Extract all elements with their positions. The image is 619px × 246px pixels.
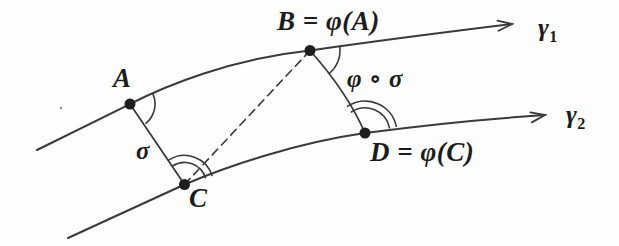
curve-gamma1-label-subscript: 1: [549, 28, 557, 45]
math-figure: A B = φ(A) C D = φ(C) σ φ ∘ σ γ1 γ2: [0, 0, 619, 246]
curve-gamma2-label: γ2: [566, 102, 585, 132]
segment-phi-sigma-label: φ ∘ σ: [347, 66, 403, 91]
point-a-label: A: [113, 65, 132, 92]
curve-gamma2: [68, 115, 545, 238]
scan-speck: [60, 107, 62, 109]
curve-gamma1-label-base: γ: [538, 13, 549, 42]
segment-sigma-label: σ: [136, 138, 150, 163]
point-d-label: D = φ(C): [370, 139, 474, 166]
angle-arc-a: [146, 95, 155, 124]
figure-drawing: [0, 0, 619, 246]
point-d-dot: [360, 128, 371, 139]
curve-gamma1: [37, 24, 512, 150]
dashed-line-b-c: [185, 51, 311, 185]
curve-gamma2-arrowhead: [530, 112, 545, 122]
angle-arc-b: [329, 46, 340, 73]
curve-gamma2-label-base: γ: [566, 100, 577, 129]
point-b-dot: [305, 45, 316, 56]
point-c-label: C: [189, 185, 208, 212]
point-a-dot: [125, 99, 136, 110]
curve-gamma1-label: γ1: [538, 15, 557, 45]
point-b-label: B = φ(A): [277, 8, 380, 35]
curve-gamma2-label-subscript: 2: [577, 115, 585, 132]
